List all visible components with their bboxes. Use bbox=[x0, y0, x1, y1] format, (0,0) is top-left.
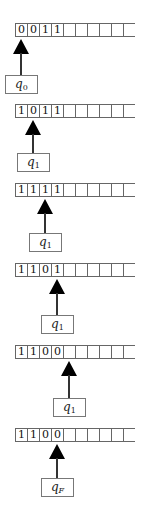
tape-6: 1100 bbox=[15, 428, 135, 442]
tape-cell bbox=[111, 105, 123, 117]
tape-cell: 0 bbox=[39, 346, 51, 358]
tape-cell: 0 bbox=[27, 105, 39, 117]
tape-cell: 1 bbox=[15, 264, 27, 276]
head-arrow-icon bbox=[49, 279, 65, 315]
tape-cell bbox=[75, 346, 87, 358]
tape-cell bbox=[87, 346, 99, 358]
tape-cell bbox=[63, 184, 75, 196]
tape-cell bbox=[111, 24, 123, 36]
tape-cell bbox=[99, 105, 111, 117]
tape-cell bbox=[75, 184, 87, 196]
head-arrow-icon bbox=[37, 199, 53, 233]
state-box: q1 bbox=[17, 153, 50, 172]
state-box: q1 bbox=[29, 233, 62, 252]
tape-cell bbox=[63, 264, 75, 276]
tape-1: 0011 bbox=[15, 23, 135, 37]
tape-cell: 0 bbox=[15, 24, 27, 36]
tape-cell bbox=[111, 184, 123, 196]
tape-cell bbox=[87, 184, 99, 196]
tape-cell: 1 bbox=[27, 346, 39, 358]
tape-cell: 1 bbox=[27, 184, 39, 196]
state-label: q bbox=[63, 400, 71, 414]
tape-5: 1100 bbox=[15, 345, 135, 359]
tape-3: 1111 bbox=[15, 183, 135, 197]
tape-cell bbox=[111, 346, 123, 358]
tape-cell bbox=[87, 24, 99, 36]
tape-cell: 0 bbox=[39, 429, 51, 441]
tape-cell bbox=[99, 184, 111, 196]
state-subscript: 1 bbox=[47, 241, 52, 250]
tape-cell bbox=[87, 429, 99, 441]
tape-cell: 1 bbox=[39, 184, 51, 196]
tape-cell: 0 bbox=[39, 264, 51, 276]
tape-cell: 1 bbox=[39, 24, 51, 36]
tape-cell: 1 bbox=[51, 184, 63, 196]
tape-cell: 1 bbox=[15, 105, 27, 117]
tape-cell bbox=[63, 24, 75, 36]
state-label: q bbox=[51, 480, 59, 494]
tape-cell: 1 bbox=[51, 264, 63, 276]
state-subscript: 1 bbox=[59, 323, 64, 332]
tape-cell bbox=[99, 429, 111, 441]
tape-cell: 1 bbox=[15, 429, 27, 441]
state-subscript: 1 bbox=[35, 161, 40, 170]
tape-cell: 1 bbox=[27, 264, 39, 276]
tape-cell bbox=[75, 264, 87, 276]
state-label: q bbox=[15, 77, 23, 91]
tape-cell bbox=[75, 105, 87, 117]
tape-cell: 0 bbox=[27, 24, 39, 36]
tape-cell: 1 bbox=[39, 105, 51, 117]
tape-cell bbox=[111, 264, 123, 276]
tape-cell: 1 bbox=[27, 429, 39, 441]
tape-cell bbox=[99, 264, 111, 276]
state-label: q bbox=[27, 155, 35, 169]
state-label: q bbox=[39, 235, 47, 249]
state-box: q1 bbox=[41, 315, 74, 334]
tape-cell bbox=[63, 346, 75, 358]
state-subscript: 0 bbox=[23, 83, 28, 92]
tape-cell: 0 bbox=[51, 429, 63, 441]
state-box: q0 bbox=[5, 75, 38, 94]
state-box: q1 bbox=[53, 398, 86, 417]
tape-cell: 1 bbox=[51, 24, 63, 36]
tape-cell bbox=[123, 24, 135, 36]
tape-2: 1011 bbox=[15, 104, 135, 118]
tape-cell bbox=[111, 429, 123, 441]
tape-4: 1101 bbox=[15, 263, 135, 277]
state-box: qF bbox=[41, 478, 74, 497]
tape-cell bbox=[63, 105, 75, 117]
tape-cell: 1 bbox=[15, 346, 27, 358]
tape-cell bbox=[123, 346, 135, 358]
head-arrow-icon bbox=[49, 444, 65, 478]
state-label: q bbox=[51, 317, 59, 331]
tape-cell bbox=[87, 264, 99, 276]
head-arrow-icon bbox=[13, 39, 29, 75]
tape-cell bbox=[123, 184, 135, 196]
tape-cell bbox=[99, 24, 111, 36]
tape-cell bbox=[123, 429, 135, 441]
head-arrow-icon bbox=[61, 361, 77, 398]
tape-cell bbox=[99, 346, 111, 358]
tape-cell: 0 bbox=[51, 346, 63, 358]
tape-cell bbox=[75, 429, 87, 441]
head-arrow-icon bbox=[25, 120, 41, 153]
tape-cell: 1 bbox=[15, 184, 27, 196]
tape-cell bbox=[123, 264, 135, 276]
tape-cell bbox=[63, 429, 75, 441]
tape-cell bbox=[75, 24, 87, 36]
tape-cell bbox=[123, 105, 135, 117]
state-subscript: F bbox=[59, 486, 65, 495]
tape-cell bbox=[87, 105, 99, 117]
tape-cell: 1 bbox=[51, 105, 63, 117]
state-subscript: 1 bbox=[71, 406, 76, 415]
